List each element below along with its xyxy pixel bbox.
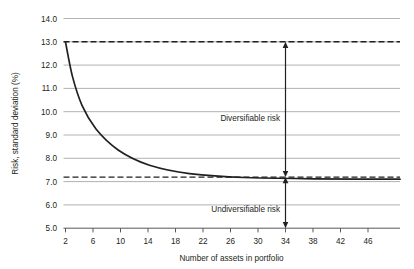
y-tick-label: 9.0 bbox=[46, 131, 58, 140]
x-tick-label: 2 bbox=[63, 237, 68, 246]
diversifiable-risk-label: Diversifiable risk bbox=[220, 114, 281, 123]
y-tick-label: 5.0 bbox=[46, 224, 58, 233]
y-axis-title: Risk, standard deviation (%) bbox=[11, 72, 20, 175]
y-tick-label: 8.0 bbox=[46, 154, 58, 163]
x-tick-label: 38 bbox=[308, 237, 318, 246]
x-tick-label: 34 bbox=[281, 237, 291, 246]
y-tick-label: 7.0 bbox=[46, 178, 58, 187]
y-tick-label: 12.0 bbox=[41, 61, 57, 70]
x-tick-label: 6 bbox=[91, 237, 96, 246]
x-tick-label: 30 bbox=[253, 237, 263, 246]
x-tick-label: 42 bbox=[336, 237, 346, 246]
x-tick-label: 46 bbox=[363, 237, 373, 246]
x-axis-title: Number of assets in portfolio bbox=[179, 254, 284, 263]
y-tick-label: 14.0 bbox=[41, 15, 57, 24]
chart-container: 14.0 13.0 12.0 11.0 10.0 9.0 8.0 7.0 6.0… bbox=[0, 0, 414, 269]
x-tick-label: 18 bbox=[171, 237, 181, 246]
undiversifiable-risk-label: Undiversifiable risk bbox=[211, 205, 281, 214]
y-tick-label: 13.0 bbox=[41, 38, 57, 47]
x-tick-label: 14 bbox=[143, 237, 153, 246]
x-tick-label: 22 bbox=[198, 237, 208, 246]
risk-diversification-chart: 14.0 13.0 12.0 11.0 10.0 9.0 8.0 7.0 6.0… bbox=[0, 0, 414, 269]
y-tick-label: 10.0 bbox=[41, 108, 57, 117]
x-tick-label: 10 bbox=[116, 237, 126, 246]
x-tick-label: 26 bbox=[226, 237, 236, 246]
y-tick-label: 6.0 bbox=[46, 201, 58, 210]
y-tick-label: 11.0 bbox=[42, 84, 58, 93]
